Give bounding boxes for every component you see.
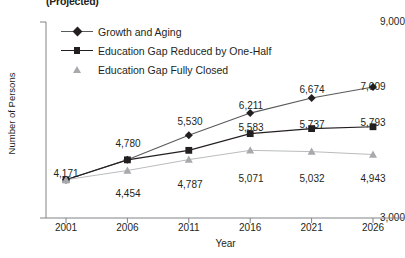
series-line-diamond <box>66 87 373 180</box>
legend-label-education-gap-closed: Education Gap Fully Closed <box>94 64 228 76</box>
series-markers <box>62 83 377 184</box>
triangle-marker-icon <box>60 63 94 77</box>
legend-item-education-gap-half[interactable]: Education Gap Reduced by One-Half <box>60 41 271 60</box>
data-label: 4,787 <box>160 179 220 190</box>
data-label: 5,071 <box>221 173 281 184</box>
x-tickmarks <box>66 218 373 223</box>
legend-item-education-gap-closed[interactable]: Education Gap Fully Closed <box>60 60 271 79</box>
data-label: 4,780 <box>98 138 158 149</box>
data-label: 7,009 <box>343 81 403 92</box>
square-marker-icon <box>60 44 94 58</box>
square-marker-icon <box>185 147 192 154</box>
data-label: 6,674 <box>282 84 342 95</box>
data-label: 5,583 <box>221 122 281 133</box>
diamond-marker-icon <box>60 25 94 39</box>
series-lines <box>66 87 373 180</box>
diamond-marker-icon <box>308 94 316 102</box>
legend-label-education-gap-half: Education Gap Reduced by One-Half <box>94 45 271 57</box>
data-label: 5,737 <box>282 119 342 130</box>
legend-label-growth-and-aging: Growth and Aging <box>94 26 181 38</box>
chart-legend: Growth and Aging Education Gap Reduced b… <box>60 22 271 79</box>
data-label: 4,454 <box>98 188 158 199</box>
series-line-square <box>66 127 373 180</box>
diamond-marker-icon <box>185 131 193 139</box>
triangle-marker-icon <box>246 146 254 153</box>
chart-container: (Projected) Number of Persons Year 9,000… <box>0 0 405 258</box>
data-label: 4,943 <box>343 173 403 184</box>
data-label: 5,032 <box>282 173 342 184</box>
square-marker-icon <box>124 156 131 163</box>
data-label: 6,211 <box>221 100 281 111</box>
data-label: 4,171 <box>36 168 96 179</box>
data-label: 5,530 <box>160 116 220 127</box>
legend-item-growth-and-aging[interactable]: Growth and Aging <box>60 22 271 41</box>
data-label: 5,793 <box>343 117 403 128</box>
